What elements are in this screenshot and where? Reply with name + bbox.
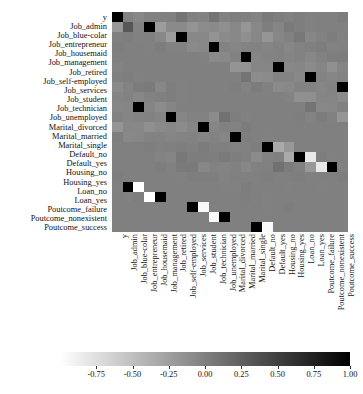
x-axis-tick-label: Job_technician: [219, 234, 228, 284]
heatmap-cell: [262, 32, 273, 42]
heatmap-cell: [198, 132, 209, 142]
heatmap-cell: [230, 182, 241, 192]
heatmap-cell: [112, 22, 123, 32]
heatmap-cell: [209, 42, 220, 52]
heatmap-cell: [144, 52, 155, 62]
heatmap-cell: [166, 192, 177, 202]
heatmap-cell: [337, 142, 348, 152]
heatmap-cell: [219, 172, 230, 182]
heatmap-cell: [262, 102, 273, 112]
heatmap-cell: [176, 142, 187, 152]
heatmap-cell: [327, 122, 338, 132]
x-axis-tick-label: Default_no: [268, 234, 277, 272]
heatmap-cell: [112, 62, 123, 72]
heatmap-cell: [144, 132, 155, 142]
heatmap-cell: [284, 72, 295, 82]
heatmap-cell: [198, 182, 209, 192]
heatmap-cell: [166, 92, 177, 102]
heatmap-cell: [198, 172, 209, 182]
heatmap-cell: [209, 102, 220, 112]
x-axis-tick-label: y: [120, 234, 129, 238]
heatmap-cell: [241, 202, 252, 212]
heatmap-cell: [284, 62, 295, 72]
heatmap-cell: [230, 102, 241, 112]
heatmap-cell: [176, 162, 187, 172]
heatmap-cell: [273, 192, 284, 202]
heatmap-cell: [133, 32, 144, 42]
heatmap-cell: [327, 32, 338, 42]
heatmap-cell: [176, 132, 187, 142]
heatmap-cell: [230, 72, 241, 82]
heatmap-cell: [230, 152, 241, 162]
heatmap-cell: [241, 122, 252, 132]
heatmap-cell: [273, 102, 284, 112]
x-axis-tick-label: Poutcome_success: [347, 234, 356, 297]
heatmap-cell: [284, 42, 295, 52]
heatmap-cell: [294, 222, 305, 232]
heatmap-cell: [187, 202, 198, 212]
heatmap-cell: [219, 222, 230, 232]
heatmap-cell: [133, 192, 144, 202]
heatmap-cell: [144, 122, 155, 132]
heatmap-cell: [241, 92, 252, 102]
heatmap-cell: [241, 162, 252, 172]
heatmap-cell: [273, 162, 284, 172]
y-axis-tick-label: Poutcome_nonexistent: [31, 214, 107, 223]
x-axis-tick-label: Job_retired: [179, 234, 188, 272]
heatmap-cell: [166, 182, 177, 192]
heatmap-cell: [198, 112, 209, 122]
colorbar-tick: [205, 366, 206, 369]
heatmap-cell: [251, 142, 262, 152]
heatmap-cell: [133, 132, 144, 142]
heatmap-cell: [294, 42, 305, 52]
heatmap-cell: [230, 12, 241, 22]
heatmap-cell: [209, 202, 220, 212]
heatmap-cell: [251, 102, 262, 112]
heatmap-cell: [327, 112, 338, 122]
heatmap-cell: [187, 152, 198, 162]
heatmap-cell: [187, 122, 198, 132]
y-axis-tick-label: Default_yes: [67, 159, 107, 168]
heatmap-cell: [155, 192, 166, 202]
heatmap-cell: [305, 82, 316, 92]
heatmap-cell: [305, 132, 316, 142]
heatmap-cell: [198, 82, 209, 92]
heatmap-cell: [273, 52, 284, 62]
heatmap-cell: [337, 72, 348, 82]
y-axis-tick-label: Job_housemaid: [55, 49, 107, 58]
heatmap-cell: [230, 32, 241, 42]
y-axis-tick-label: Job_technician: [57, 104, 107, 113]
heatmap-cell: [316, 202, 327, 212]
heatmap-cell: [251, 82, 262, 92]
heatmap-cell: [112, 82, 123, 92]
heatmap-cell: [337, 32, 348, 42]
x-axis-tick-label: Default_yes: [278, 234, 287, 274]
heatmap-cell: [133, 222, 144, 232]
heatmap-cell: [176, 222, 187, 232]
heatmap-cell: [112, 202, 123, 212]
heatmap-cell: [337, 62, 348, 72]
heatmap-cell: [155, 112, 166, 122]
heatmap-cell: [327, 72, 338, 82]
y-axis-tick-label: Housing_yes: [63, 177, 107, 186]
heatmap-cell: [316, 22, 327, 32]
heatmap-cell: [337, 162, 348, 172]
heatmap-cell: [209, 182, 220, 192]
heatmap-cell: [305, 152, 316, 162]
heatmap-cell: [187, 212, 198, 222]
heatmap-cell: [241, 112, 252, 122]
heatmap-cell: [187, 32, 198, 42]
heatmap-cell: [273, 12, 284, 22]
x-axis-tick-label: Loan_yes: [317, 234, 326, 267]
heatmap-cell: [316, 102, 327, 112]
heatmap-cell: [251, 152, 262, 162]
heatmap-cell: [327, 162, 338, 172]
heatmap-cell: [133, 72, 144, 82]
x-axis-tick-label: Job_self-employed: [189, 234, 198, 298]
heatmap-cell: [219, 202, 230, 212]
heatmap-cell: [284, 132, 295, 142]
heatmap-cell: [209, 122, 220, 132]
heatmap-cell: [219, 112, 230, 122]
heatmap-cell: [305, 212, 316, 222]
colorbar-tick: [350, 366, 351, 369]
